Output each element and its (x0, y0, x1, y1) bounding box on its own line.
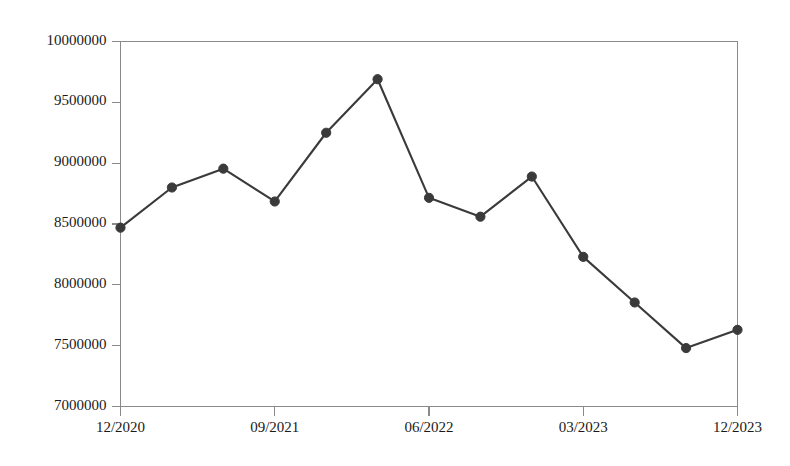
y-axis-tick-label: 9000000 (54, 153, 107, 170)
x-axis-tick-label: 12/2023 (678, 419, 790, 436)
axis-lines (121, 42, 738, 407)
x-axis-tick-label: 06/2022 (369, 419, 489, 436)
data-point-marker (527, 172, 536, 181)
data-point-marker (681, 344, 690, 353)
series-line (121, 79, 738, 348)
data-point-marker (733, 325, 742, 334)
data-line (121, 79, 738, 348)
y-axis-tick-label: 10000000 (47, 32, 107, 49)
y-axis-tick-label: 9500000 (54, 92, 107, 109)
y-axis-tick-label: 8500000 (54, 214, 107, 231)
y-axis-tick-label: 7500000 (54, 336, 107, 353)
data-point-marker (630, 298, 639, 307)
y-axis-tick-label: 8000000 (54, 275, 107, 292)
data-point-marker (270, 197, 279, 206)
data-point-marker (476, 212, 485, 221)
chart-plot-area (0, 0, 790, 466)
axis-tick-marks (112, 42, 738, 416)
y-axis-tick-label: 7000000 (54, 397, 107, 414)
data-point-marker (116, 223, 125, 232)
data-point-markers (116, 75, 742, 353)
data-point-marker (424, 193, 433, 202)
data-point-marker (167, 183, 176, 192)
data-point-marker (219, 164, 228, 173)
x-axis-tick-label: 03/2023 (523, 419, 643, 436)
x-axis-tick-label: 09/2021 (215, 419, 335, 436)
x-axis-tick-label: 12/2020 (61, 419, 181, 436)
line-chart: 1000000095000009000000850000080000007500… (0, 0, 790, 466)
data-point-marker (579, 252, 588, 261)
data-point-marker (373, 75, 382, 84)
data-point-marker (322, 128, 331, 137)
